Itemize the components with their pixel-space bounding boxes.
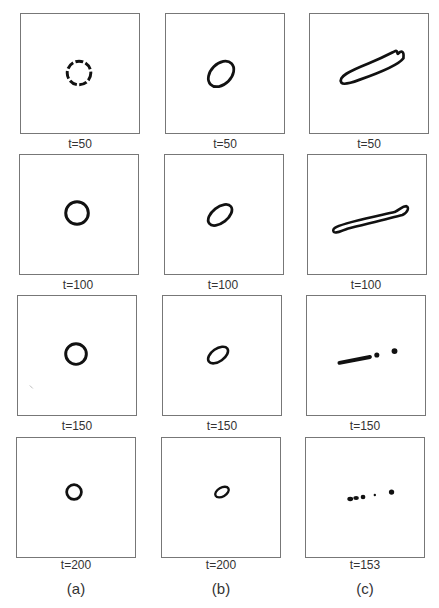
- circle-contour: [17, 438, 135, 557]
- dashed-circle-contour: [21, 14, 139, 133]
- time-label: t=50: [309, 137, 429, 151]
- panel-a-t50: [20, 13, 140, 134]
- column-label-a: (a): [16, 580, 136, 597]
- tilted-ellipse-contour: [163, 296, 281, 415]
- panel-c-t153: [305, 437, 425, 558]
- time-label: t=50: [165, 137, 285, 151]
- tilted-ellipse-contour: [162, 438, 280, 557]
- time-label: t=50: [20, 137, 140, 151]
- time-label: t=150: [17, 419, 137, 433]
- time-label: t=153: [305, 558, 425, 572]
- panel-a-t100: [19, 154, 139, 275]
- panel-b-t100: [164, 154, 284, 275]
- panel-b-t200: [161, 437, 281, 558]
- time-label: t=100: [306, 278, 426, 292]
- panel-b-t50: [165, 13, 285, 134]
- fragmented-line-with-droplets: [307, 296, 425, 415]
- tilted-ellipse-contour: [166, 14, 284, 133]
- panel-b-t150: [162, 295, 282, 416]
- time-label: t=150: [162, 419, 282, 433]
- time-label: t=150: [305, 419, 425, 433]
- panel-c-t100: [307, 154, 427, 275]
- column-label-b: (b): [161, 580, 281, 597]
- droplets: [306, 438, 424, 557]
- panel-a-t150: [17, 295, 137, 416]
- elongated-loop-contour: [310, 14, 428, 133]
- panel-c-t50: [309, 13, 429, 134]
- time-label: t=100: [163, 278, 283, 292]
- tilted-ellipse-contour: [165, 155, 283, 274]
- circle-contour: [18, 296, 136, 415]
- panel-a-t200: [16, 437, 136, 558]
- column-label-c: (c): [305, 580, 425, 597]
- time-label: t=100: [18, 278, 138, 292]
- thin-elongated-loop-contour: [308, 155, 426, 274]
- time-label: t=200: [16, 558, 136, 572]
- time-label: t=200: [161, 558, 281, 572]
- circle-contour: [20, 155, 138, 274]
- panel-c-t150: [306, 295, 426, 416]
